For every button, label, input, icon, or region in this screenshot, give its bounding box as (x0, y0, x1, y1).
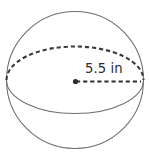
center-point-dot (73, 79, 78, 84)
radius-label: 5.5 in (85, 61, 123, 76)
sphere-figure-svg: 5.5 in (0, 0, 149, 157)
sphere-diagram: 5.5 in (0, 0, 149, 157)
equator-back-dashed-arc (7, 46, 144, 80)
equator-front-arc (7, 80, 144, 114)
